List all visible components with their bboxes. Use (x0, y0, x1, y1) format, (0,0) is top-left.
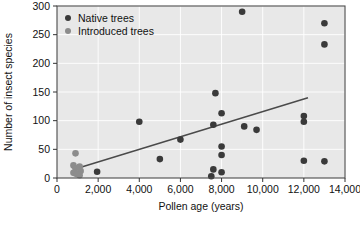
legend-marker (65, 28, 71, 34)
data-point[interactable] (76, 172, 83, 179)
x-tick-label: 4,000 (126, 183, 152, 195)
data-point[interactable] (72, 150, 79, 157)
x-tick-label: 6,000 (167, 183, 193, 195)
y-tick-label: 150 (32, 86, 50, 98)
x-axis-title: Pollen age (years) (158, 200, 243, 212)
data-point[interactable] (301, 113, 308, 120)
y-axis: 050100150200250300 (32, 0, 57, 184)
scatter-plot-figure: 02,0004,0006,0008,00010,00012,00014,0000… (0, 0, 360, 226)
data-point[interactable] (321, 20, 328, 27)
x-tick-label: 8,000 (208, 183, 234, 195)
data-point[interactable] (208, 173, 215, 180)
data-point[interactable] (218, 152, 225, 159)
y-tick-label: 250 (32, 28, 50, 40)
data-point[interactable] (218, 110, 225, 117)
data-point[interactable] (218, 143, 225, 150)
data-point[interactable] (241, 123, 248, 130)
data-point[interactable] (239, 8, 246, 15)
data-point[interactable] (210, 166, 217, 173)
legend-label: Introduced trees (78, 25, 154, 37)
y-axis-title: Number of insect species (2, 33, 14, 151)
data-point[interactable] (301, 119, 308, 126)
data-point[interactable] (321, 41, 328, 48)
data-point[interactable] (177, 136, 184, 143)
data-point[interactable] (94, 168, 101, 175)
y-tick-label: 0 (44, 172, 50, 184)
data-point[interactable] (157, 156, 164, 163)
data-point[interactable] (253, 127, 260, 134)
data-point[interactable] (301, 158, 308, 165)
y-tick-label: 200 (32, 57, 50, 69)
x-tick-label: 2,000 (85, 183, 111, 195)
y-tick-label: 100 (32, 114, 50, 126)
data-point[interactable] (321, 158, 328, 165)
x-tick-label: 0 (54, 183, 60, 195)
y-tick-label: 300 (32, 0, 50, 12)
legend-label: Native trees (78, 12, 134, 24)
x-tick-label: 12,000 (288, 183, 320, 195)
x-tick-label: 14,000 (329, 183, 360, 195)
data-point[interactable] (218, 169, 225, 176)
data-point[interactable] (212, 90, 219, 97)
x-axis: 02,0004,0006,0008,00010,00012,00014,000 (54, 178, 360, 195)
chart-canvas: 02,0004,0006,0008,00010,00012,00014,0000… (0, 0, 360, 226)
data-point[interactable] (136, 119, 143, 126)
data-point[interactable] (210, 121, 217, 128)
legend-marker (65, 15, 71, 21)
y-tick-label: 50 (38, 143, 50, 155)
x-tick-label: 10,000 (247, 183, 279, 195)
